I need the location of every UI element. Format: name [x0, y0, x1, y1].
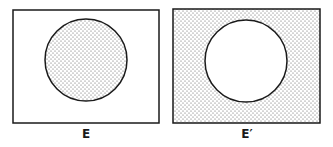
label-e-complement: E′: [241, 127, 252, 141]
label-e: E: [82, 127, 90, 141]
event-circle-shaded: [45, 19, 127, 101]
panel-e-complement: [173, 9, 320, 123]
venn-diagram: [0, 0, 333, 147]
event-circle-unshaded: [205, 20, 287, 102]
panel-e: [13, 10, 159, 123]
